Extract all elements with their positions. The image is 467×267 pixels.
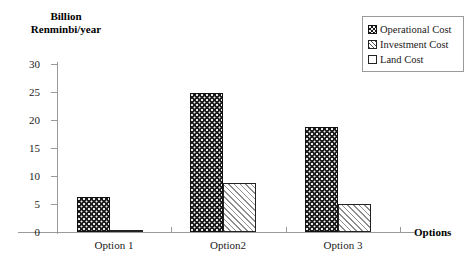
legend-label-operational-cost: Operational Cost xyxy=(380,24,451,35)
legend-swatch-investment-icon xyxy=(368,40,377,49)
bar-operational-option-3 xyxy=(305,127,338,232)
bar-operational-option-1 xyxy=(77,197,110,232)
y-tick-label-25: 25 xyxy=(0,86,40,98)
x-axis-line xyxy=(18,232,414,233)
y-tick-label-30: 30 xyxy=(0,58,40,70)
y-tick-label-5: 5 xyxy=(0,198,40,210)
y-axis-title: Billion Renminbi/year xyxy=(6,10,126,36)
y-tick-label-0: 0 xyxy=(0,226,40,238)
legend-item-land-cost: Land Cost xyxy=(368,54,459,65)
y-tick-label-10: 10 xyxy=(0,170,40,182)
plot-area xyxy=(57,64,400,232)
chart-legend: Operational Cost Investment Cost Land Co… xyxy=(362,16,464,72)
y-tick-label-20: 20 xyxy=(0,114,40,126)
y-tick-label-15: 15 xyxy=(0,142,40,154)
bar-investment-option-1 xyxy=(110,230,143,232)
y-axis-title-line1: Billion xyxy=(6,10,126,23)
legend-item-operational-cost: Operational Cost xyxy=(368,24,459,35)
y-axis-title-line2: Renminbi/year xyxy=(6,23,126,36)
legend-swatch-land-icon xyxy=(368,55,377,64)
x-tick-label-option-2: Option2 xyxy=(168,239,288,251)
x-axis-title: Options xyxy=(414,226,451,238)
legend-label-land-cost: Land Cost xyxy=(380,54,423,65)
bar-investment-option-3 xyxy=(338,204,371,232)
x-tick-label-option-3: Option 3 xyxy=(283,239,403,251)
bar-chart: Billion Renminbi/year 30 25 20 15 10 5 0 xyxy=(0,0,467,267)
x-tick-label-option-1: Option 1 xyxy=(54,239,174,251)
legend-swatch-operational-icon xyxy=(368,25,377,34)
bar-operational-option-2 xyxy=(190,93,223,232)
bar-investment-option-2 xyxy=(223,183,256,232)
legend-item-investment-cost: Investment Cost xyxy=(368,39,459,50)
legend-label-investment-cost: Investment Cost xyxy=(380,39,449,50)
x-tick-3 xyxy=(400,227,401,233)
